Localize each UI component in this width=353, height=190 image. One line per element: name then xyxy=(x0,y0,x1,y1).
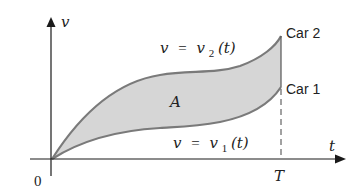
velocity-area-diagram: v t 0 T v = v 2 (t) v = v 1 (t) A Car 2 … xyxy=(0,0,353,190)
x-axis-label: t xyxy=(329,137,336,155)
x-axis-arrow-icon xyxy=(335,155,346,164)
car2-label: Car 2 xyxy=(286,25,320,41)
y-axis-arrow-icon xyxy=(47,17,56,27)
curve-v1-label: v = v 1 (t) xyxy=(173,134,249,155)
region-label: A xyxy=(168,93,181,111)
car1-label: Car 1 xyxy=(286,81,320,97)
t-marker-label: T xyxy=(274,167,285,185)
origin-label: 0 xyxy=(34,173,42,189)
curve-v2-label: v = v 2 (t) xyxy=(160,39,236,60)
y-axis-label: v xyxy=(61,13,70,31)
